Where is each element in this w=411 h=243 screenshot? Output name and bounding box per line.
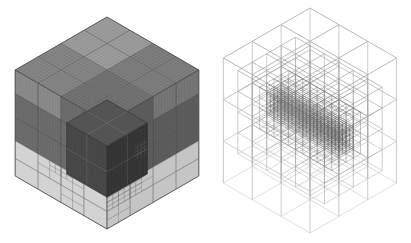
amr-octree-figure bbox=[0, 0, 411, 243]
panel-shaded-octree-cube bbox=[0, 0, 205, 243]
panel-wireframe-octree-cube bbox=[205, 0, 411, 243]
